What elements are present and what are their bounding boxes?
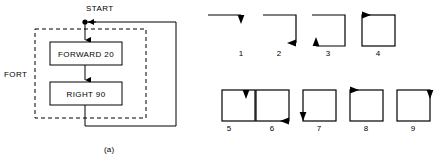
- right-90-label: RIGHT 90: [66, 90, 105, 99]
- panel-b-turtle-traces: 1 2 3 4: [222, 0, 444, 167]
- step-2-number: 2: [277, 49, 282, 58]
- step-9-path: [397, 90, 430, 121]
- panel-a-flowchart: START FORT FORWARD 20 RIGHT 90: [0, 0, 222, 167]
- turtle-step-2: 2: [263, 15, 296, 58]
- fort-label: FORT: [4, 70, 27, 79]
- start-label: START: [86, 4, 113, 13]
- turtle-step-7: 7: [300, 90, 336, 133]
- step-5-number: 5: [227, 124, 232, 133]
- caption-a: (a): [104, 145, 114, 154]
- start-junction-dot: [82, 19, 87, 24]
- loop-back-path: [85, 22, 176, 126]
- step-5-arrow-down-icon: [243, 90, 250, 99]
- turtle-step-4: 4: [362, 12, 395, 58]
- step-6-number: 6: [270, 124, 275, 133]
- step-3-number: 3: [326, 49, 331, 58]
- step-8-arrow-right-icon: [350, 87, 359, 94]
- step-8-path: [350, 90, 383, 121]
- step-7-path: [303, 90, 336, 121]
- step-2-path: [263, 15, 296, 43]
- step-1-number: 1: [239, 49, 244, 58]
- step-3-arrow-up-icon: [313, 37, 320, 46]
- turtle-step-5: 5: [222, 90, 255, 133]
- turtle-step-6: 6: [256, 90, 289, 133]
- turtle-step-8: 8: [350, 87, 383, 133]
- step-4-number: 4: [376, 49, 381, 58]
- step-7-arrow-down-icon: [300, 112, 307, 121]
- step-4-arrow-right-icon: [362, 12, 371, 19]
- step-9-arrow-down-icon: [427, 90, 434, 99]
- step-9-number: 9: [411, 124, 416, 133]
- figure-root: START FORT FORWARD 20 RIGHT 90: [0, 0, 444, 167]
- turtle-step-3: 3: [312, 15, 345, 58]
- step-1-arrow-down-icon: [238, 15, 245, 24]
- step-6-arrow-left-icon: [280, 118, 289, 125]
- step-5-path: [222, 90, 255, 121]
- step-8-number: 8: [364, 124, 369, 133]
- step-6-path: [256, 90, 289, 121]
- step-2-arrow-left-icon: [287, 40, 296, 47]
- step-4-path: [362, 15, 395, 46]
- turtle-step-9: 9: [397, 90, 433, 133]
- step-7-number: 7: [317, 124, 322, 133]
- flowchart-svg: START FORT FORWARD 20 RIGHT 90: [0, 0, 222, 167]
- turtle-traces-svg: 1 2 3 4: [222, 0, 444, 167]
- forward-20-label: FORWARD 20: [58, 50, 114, 59]
